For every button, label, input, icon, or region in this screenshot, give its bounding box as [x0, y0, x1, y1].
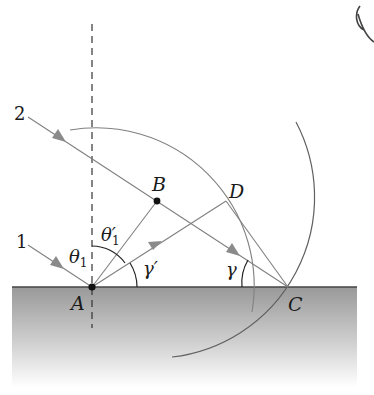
label-ray-1: 1 — [16, 231, 27, 252]
reflecting-surface — [12, 287, 357, 387]
label-ray-2: 2 — [14, 103, 25, 124]
ray-2-arrow-icon — [52, 129, 66, 142]
label-theta1-prime: θ′1 — [101, 224, 120, 248]
label-point-C: C — [288, 293, 303, 315]
label-gamma: γ — [226, 259, 237, 280]
ray-1-arrow-icon — [50, 256, 64, 269]
point-A — [88, 283, 95, 290]
handwritten-mark — [357, 6, 374, 42]
label-point-A: A — [69, 292, 85, 314]
wavelet-arc-A — [70, 128, 254, 312]
theta1-angle-arc — [92, 246, 125, 263]
reflected-ray-arrow-icon — [148, 241, 162, 250]
gamma-angle-arc — [242, 260, 248, 287]
gamma-prime-angle-arc — [130, 263, 137, 287]
label-theta1: θ1 — [69, 246, 87, 270]
label-point-B: B — [151, 173, 166, 195]
point-B — [154, 198, 161, 205]
label-gamma-prime: γ′ — [143, 258, 158, 279]
reflection-huygens-diagram: 2 1 A B C D θ1 θ′1 γ′ γ — [0, 0, 374, 395]
label-point-D: D — [228, 180, 244, 202]
ray-2-lower-arrow-icon — [226, 243, 240, 256]
